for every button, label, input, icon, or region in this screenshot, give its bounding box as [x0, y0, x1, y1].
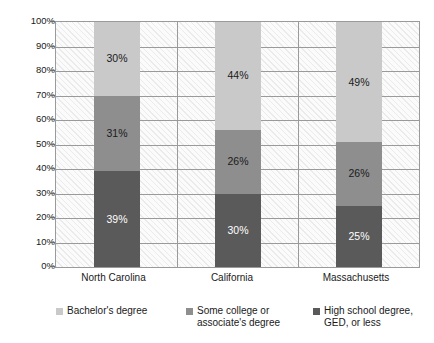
- bar-segment-value-label: 30%: [227, 225, 248, 236]
- bar-segment: 44%: [215, 22, 261, 130]
- legend-label-some-college-line1: Some college or: [197, 305, 280, 317]
- y-axis: 0%10%20%30%40%50%60%70%80%90%100%: [0, 21, 55, 268]
- category-label-north-carolina: North Carolina: [55, 272, 172, 284]
- legend-label-high-school-line2: GED, or less: [324, 317, 413, 329]
- y-tick-label-50: 50%: [9, 139, 55, 149]
- bar-segment-value-label: 26%: [227, 156, 248, 167]
- y-tick-label-60: 60%: [9, 114, 55, 124]
- legend-label-high-school-line1: High school degree,: [324, 305, 413, 317]
- bar-segment: 31%: [94, 96, 140, 172]
- y-tick-label-40: 40%: [9, 163, 55, 173]
- bar-stack-california: 44%26%30%: [215, 22, 261, 267]
- stacked-bar-chart: 0%10%20%30%40%50%60%70%80%90%100% 30%31%…: [0, 0, 434, 343]
- legend-label-bachelors: Bachelor's degree: [67, 305, 147, 317]
- legend-item-bachelors: Bachelor's degree: [56, 305, 147, 317]
- bar-segment-value-label: 39%: [106, 214, 127, 225]
- category-label-california: California: [172, 272, 292, 284]
- legend-swatch-bachelors: [56, 308, 63, 315]
- y-tick-label-10: 10%: [9, 237, 55, 247]
- y-tick-label-90: 90%: [9, 41, 55, 51]
- y-tick-label-80: 80%: [9, 65, 55, 75]
- chart-legend: Bachelor's degree Some college or associ…: [0, 303, 434, 337]
- y-tick-label-20: 20%: [9, 212, 55, 222]
- bar-segment-value-label: 26%: [348, 168, 369, 179]
- bar-segment: 30%: [215, 194, 261, 268]
- bar-segment: 49%: [336, 22, 382, 142]
- bar-segment: 30%: [94, 22, 140, 96]
- bar-stack-north-carolina: 30%31%39%: [94, 22, 140, 267]
- legend-label-some-college: Some college or associate's degree: [197, 305, 280, 329]
- legend-swatch-some-college: [186, 308, 193, 315]
- bar-segment-value-label: 31%: [106, 128, 127, 139]
- y-tick-label-30: 30%: [9, 188, 55, 198]
- bar-segment: 26%: [336, 142, 382, 206]
- bar-segment: 39%: [94, 171, 140, 267]
- y-tick-label-70: 70%: [9, 90, 55, 100]
- y-tick-label-0: 0%: [9, 261, 55, 271]
- bar-segment: 26%: [215, 130, 261, 194]
- plot-area: 30%31%39%44%26%30%49%26%25%: [55, 21, 420, 268]
- bar-segment-value-label: 25%: [348, 231, 369, 242]
- bar-segment-value-label: 44%: [227, 70, 248, 81]
- legend-label-some-college-line2: associate's degree: [197, 317, 280, 329]
- y-tick-label-100: 100%: [9, 16, 55, 26]
- category-label-massachusetts: Massachusetts: [292, 272, 420, 284]
- legend-item-some-college: Some college or associate's degree: [186, 305, 280, 329]
- legend-label-high-school: High school degree, GED, or less: [324, 305, 413, 329]
- legend-swatch-high-school: [313, 308, 320, 315]
- bar-segment-value-label: 49%: [348, 77, 369, 88]
- legend-item-high-school: High school degree, GED, or less: [313, 305, 413, 329]
- panel-separator-1: [177, 22, 178, 267]
- panel-separator-2: [298, 22, 299, 267]
- bar-segment: 25%: [336, 206, 382, 267]
- bar-segment-value-label: 30%: [106, 53, 127, 64]
- bar-stack-massachusetts: 49%26%25%: [336, 22, 382, 267]
